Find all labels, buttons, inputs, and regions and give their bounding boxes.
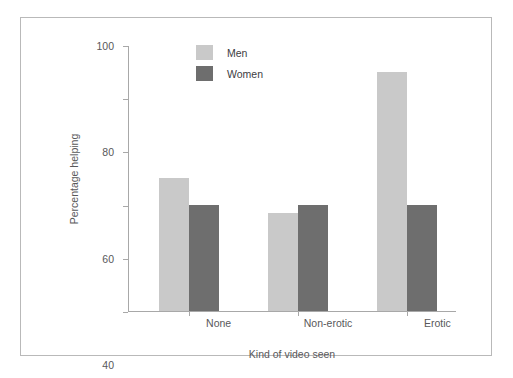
bar-non-erotic-men [268,213,298,311]
bar-none-men [159,178,189,311]
x-axis-tick [189,311,190,316]
y-axis-tick: 40 [123,206,128,207]
bar-group: None [159,45,219,311]
y-axis-tick: 80 [123,99,128,100]
y-axis-tick: 60 [123,152,128,153]
chart-figure-frame: Percentage helping Men Women 02040608010… [20,17,492,356]
x-axis-tick [298,311,299,316]
bar-none-women [189,205,219,311]
y-axis-tick-label: 100 [96,40,114,52]
bar-erotic-men [377,72,407,311]
bar-group: Erotic [377,45,437,311]
x-axis-category-label: Non-erotic [268,317,388,329]
x-axis-category-label: Erotic [377,317,497,329]
bar-non-erotic-women [298,205,328,311]
y-axis-tick: 20 [123,259,128,260]
y-axis-tick-label: 40 [102,359,114,371]
plot-area: 020406080100 NoneNon-eroticErotic [128,46,456,312]
y-axis-line [128,46,129,312]
bar-erotic-women [407,205,437,311]
y-axis-tick-label: 80 [102,146,114,158]
x-axis-title-label: Kind of video seen [249,348,335,360]
y-axis-title-label: Percentage helping [68,134,80,225]
bar-group: Non-erotic [268,45,328,311]
y-axis-tick: 100 [123,46,128,47]
x-axis-title: Kind of video seen [128,348,456,360]
y-axis-title: Percentage helping [67,46,81,312]
x-axis-tick [407,311,408,316]
y-axis-tick-label: 60 [102,253,114,265]
x-axis-category-label: None [159,317,279,329]
y-axis-tick: 0 [123,312,128,313]
